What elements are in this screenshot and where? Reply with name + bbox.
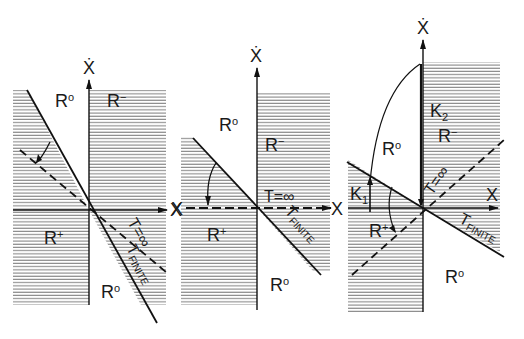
y-axis-label: Ẋ [83,58,95,78]
x-axis-label: X [486,185,498,205]
region-label-r0-upper: Ro [219,115,238,135]
t-infinity-label: T=∞ [264,188,295,205]
panel-2: Ẋ X X Ro R− R+ Ro T=∞ TFINITE [171,46,343,310]
region-label-r0-upper: Ro [55,91,74,111]
phase-plane-diagram: Ẋ X Ro R− R+ Ro T=∞ TFINITE Ẋ X X Ro R− … [0,0,524,339]
region-label-r0-lower: Ro [101,282,120,302]
y-axis-label: Ẋ [250,46,262,66]
panel-3: Ẋ X K2 K1 Ro R− R+ Ro T=∞ TFINITE [347,18,504,312]
hatched-region-left [181,137,257,305]
rotation-arc [370,64,420,183]
hatched-region-lower-left [13,210,89,305]
region-label-r0-upper: Ro [382,139,401,159]
x-axis-label-left: X [171,199,183,219]
hatched-region-upper-left [13,90,89,210]
hatched-region-upper-right [89,90,166,210]
hatched-region-left [348,160,423,312]
y-axis-label: Ẋ [417,18,429,38]
panel-1: Ẋ X Ro R− R+ Ro T=∞ TFINITE [13,58,182,323]
x-axis-label: X [331,199,343,219]
